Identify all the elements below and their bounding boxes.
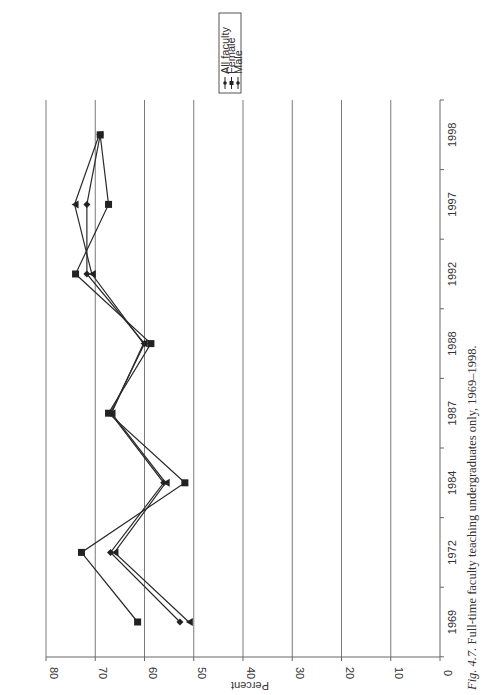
y-tick-label: 20 <box>344 667 356 679</box>
x-tick-label: 1969 <box>446 610 458 634</box>
square-marker <box>72 271 79 278</box>
y-tick-label: 70 <box>97 667 109 679</box>
series-line <box>87 135 180 622</box>
x-tick-label: 1972 <box>446 540 458 564</box>
legend: All facultyFemaleMale <box>219 13 244 93</box>
x-tick-label: 1992 <box>446 262 458 286</box>
series-female <box>72 131 188 625</box>
caption-prefix: Fig. 4.7. <box>465 648 479 691</box>
svg-text:Fig. 4.7. Full-time facu: Fig. 4.7. Full-time faculty teaching und… <box>465 345 479 691</box>
series-line <box>75 135 189 622</box>
square-marker <box>78 549 85 556</box>
figure-caption: Fig. 4.7. Full-time faculty teaching und… <box>465 345 479 691</box>
x-tick-label: 1987 <box>446 401 458 425</box>
diamond-marker <box>83 201 90 208</box>
series-male <box>72 131 193 626</box>
line-chart: 0102030405060708019691972198419871988199… <box>0 0 487 695</box>
square-marker <box>134 619 141 626</box>
data-series <box>72 131 193 626</box>
x-tick-label: 1997 <box>446 192 458 216</box>
triangle-marker <box>186 618 193 626</box>
axes: 0102030405060708019691972198419871988199… <box>46 100 458 679</box>
x-tick-label: 1998 <box>446 123 458 147</box>
triangle-icon <box>236 81 240 85</box>
square-marker <box>181 479 188 486</box>
square-icon <box>230 81 234 85</box>
square-marker <box>105 201 112 208</box>
x-tick-label: 1984 <box>446 471 458 495</box>
y-tick-label: 0 <box>442 670 454 676</box>
y-axis-title: Percent <box>231 680 269 692</box>
y-tick-label: 10 <box>393 667 405 679</box>
x-tick-label: 1988 <box>446 331 458 355</box>
y-tick-label: 60 <box>147 667 159 679</box>
square-marker <box>147 340 154 347</box>
y-tick-label: 80 <box>48 667 60 679</box>
series-all-faculty <box>83 131 183 625</box>
y-tick-label: 50 <box>196 667 208 679</box>
legend-label: Male <box>232 50 244 74</box>
series-line <box>76 135 185 622</box>
y-tick-label: 30 <box>294 667 306 679</box>
diamond-icon <box>223 81 227 85</box>
y-tick-label: 40 <box>245 667 257 679</box>
caption-text: Full-time faculty teaching undergraduate… <box>465 345 479 644</box>
